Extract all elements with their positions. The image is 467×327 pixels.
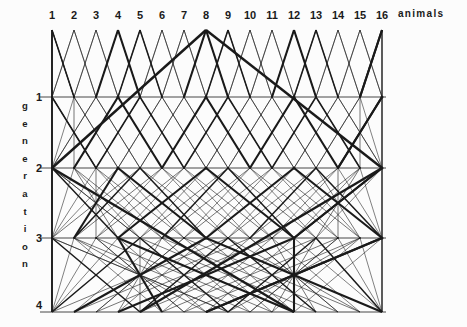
lattice-node-g1-a10 <box>271 96 273 98</box>
lattice-node-g2-a3 <box>117 167 120 170</box>
y-axis-label-letter: n <box>18 255 32 273</box>
cross-line-r-g3-a12 <box>316 238 382 312</box>
y-axis-label-letter: i <box>18 220 32 238</box>
cross-line-l-g2-a1 <box>52 168 74 238</box>
x-tick-label-5: 5 <box>137 10 143 21</box>
chevron-left-tail <box>52 168 294 312</box>
lattice-node-g1-a1 <box>73 96 75 98</box>
y-tick-label-3: 3 <box>32 233 42 244</box>
lattice-node-g2-a0 <box>51 167 53 169</box>
x-tick-label-3: 3 <box>93 10 99 21</box>
x-tick-label-2: 2 <box>71 10 77 21</box>
lattice-node-g3-a12 <box>315 237 317 239</box>
y-axis-label-letter: g <box>18 97 32 115</box>
cross-line-r-g3-a14 <box>360 238 382 312</box>
lattice-node-g3-a2 <box>95 237 97 239</box>
lattice-node-g2-a7 <box>205 167 208 170</box>
lattice-node-g3-a11 <box>293 237 296 240</box>
x-tick-label-10: 10 <box>244 10 256 21</box>
lattice-node-g2-a15 <box>381 167 384 170</box>
lattice-node-g1-a12 <box>315 96 317 98</box>
lattice-node-g2-a6 <box>183 167 185 169</box>
lattice-node-g3-a10 <box>271 237 273 239</box>
x-tick-label-11: 11 <box>266 10 278 21</box>
lattice-node-g1-a15 <box>381 96 384 99</box>
lattice-node-g2-a9 <box>249 167 251 169</box>
lattice-node-g2-a4 <box>139 167 141 169</box>
x-tick-label-1: 1 <box>49 10 55 21</box>
lattice-node-g1-a7 <box>205 96 208 99</box>
lattice-node-g3-a15 <box>381 237 384 240</box>
lattice-node-g3-a4 <box>139 237 141 239</box>
y-axis-label-letter: n <box>18 132 32 150</box>
x-tick-label-7: 7 <box>181 10 187 21</box>
cross-line-l-g2-a2 <box>52 168 96 238</box>
x-tick-label-14: 14 <box>332 10 344 21</box>
y-axis-label-letter: a <box>18 185 32 203</box>
lattice-node-g3-a9 <box>249 237 251 239</box>
lattice-node-g2-a2 <box>95 167 97 169</box>
cross-line-l-g3-a3 <box>52 238 118 312</box>
lattice-node-g1-a14 <box>359 96 361 98</box>
lattice-node-g1-a0 <box>51 96 53 98</box>
lattice-node-g3-a0 <box>51 237 53 239</box>
pedigree-diagram-canvas: generation 12345678910111213141516 1234 … <box>0 0 467 327</box>
cross-line-r-g1-a14 <box>360 97 382 168</box>
lattice-node-g1-a6 <box>183 96 185 98</box>
lattice-node-g1-a11 <box>293 96 296 99</box>
lattice-node-g2-a10 <box>271 167 273 169</box>
lattice-node-g3-a6 <box>183 237 185 239</box>
cross-line-r-g2-a14 <box>360 168 382 238</box>
x-tick-label-4: 4 <box>115 10 121 21</box>
x-tick-label-12: 12 <box>288 10 300 21</box>
x-tick-label-9: 9 <box>225 10 231 21</box>
x-tick-label-13: 13 <box>310 10 322 21</box>
lattice-node-g2-a1 <box>73 167 75 169</box>
y-axis-label-generation: generation <box>18 97 32 273</box>
lattice-node-g1-a3 <box>117 96 120 99</box>
lattice-node-g1-a9 <box>249 96 251 98</box>
lattice-node-g3-a13 <box>337 237 339 239</box>
lattice-node-g1-a13 <box>337 96 339 98</box>
y-axis-label-letter: e <box>18 115 32 133</box>
lattice-node-g2-a5 <box>161 167 163 169</box>
x-tick-label-6: 6 <box>159 10 165 21</box>
lattice-node-g1-a8 <box>227 96 229 98</box>
x-tick-label-8: 8 <box>203 10 209 21</box>
y-axis-label-letter: e <box>18 150 32 168</box>
y-tick-label-4: 4 <box>32 300 42 311</box>
lattice-node-g3-a5 <box>161 237 163 239</box>
lattice-node-g3-a3 <box>117 237 120 240</box>
y-axis-label-letter: t <box>18 203 32 221</box>
lattice-node-g3-a1 <box>73 237 75 239</box>
x-tick-label-15: 15 <box>354 10 366 21</box>
x-axis-label-animals: animals <box>398 8 444 19</box>
lattice-node-g1-a5 <box>161 96 163 98</box>
cross-line-l-g3-a1 <box>52 238 74 312</box>
lattice-node-g2-a11 <box>293 167 296 170</box>
cross-line-r-g2-a13 <box>338 168 382 238</box>
x-tick-label-16: 16 <box>376 10 388 21</box>
chevron-right-tail <box>140 168 382 312</box>
lattice-node-g2-a8 <box>227 167 229 169</box>
lattice-node-g2-a14 <box>359 167 361 169</box>
lattice-node-g1-a2 <box>95 96 97 98</box>
chevron-right-main <box>206 30 382 168</box>
y-tick-label-2: 2 <box>32 163 42 174</box>
cross-line-l-g3-a2 <box>52 238 96 312</box>
lattice-node-g3-a7 <box>205 237 208 240</box>
lattice-node-g3-a14 <box>359 237 361 239</box>
lattice-node-g1-a4 <box>139 96 141 98</box>
lattice-node-g2-a12 <box>315 167 317 169</box>
y-axis-label-letter: r <box>18 167 32 185</box>
y-axis-label-letter: o <box>18 238 32 256</box>
lattice-node-g3-a8 <box>227 237 229 239</box>
lattice-node-g2-a13 <box>337 167 339 169</box>
cross-line-r-g3-a13 <box>338 238 382 312</box>
lattice-svg <box>0 0 467 327</box>
y-tick-label-1: 1 <box>32 92 42 103</box>
